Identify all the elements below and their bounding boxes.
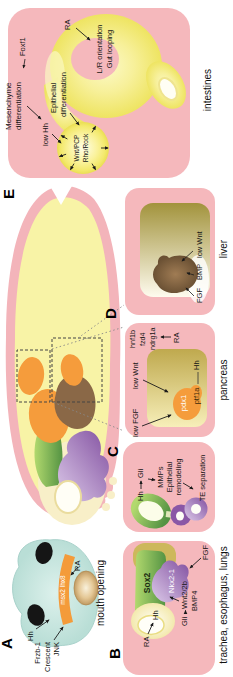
caption-mouth-opening: mouth opening [96, 537, 107, 649]
label-mesenchyme-2: differentiation [15, 82, 23, 130]
label-epithelial-1: Epithelial [50, 83, 58, 113]
caption-liver: liver [219, 219, 230, 279]
label-fgf-b: FGF [202, 545, 210, 560]
trachea-lumen [176, 512, 184, 521]
embryo-schematic [6, 186, 124, 525]
label-rho-rock: Rho/Rock [83, 127, 90, 169]
label-hnf1b: hnf1b [129, 330, 137, 348]
label-frzb1: Frzb-1 [34, 642, 42, 677]
label-low-wnt-d: low Wnt [196, 231, 204, 258]
label-fzd4: fzd4 [139, 332, 147, 346]
label-low-wnt-c: low Wnt [132, 362, 140, 389]
label-wnt2-2b: Wnt2/2b [181, 581, 189, 609]
label-te-separation: TE separation [199, 449, 207, 507]
caption-intestines: intestines [203, 55, 214, 125]
label-gli-b2: Gli [137, 469, 145, 478]
label-ptf1a: ptf1a [193, 381, 201, 411]
label-hh-c: Hh [193, 360, 201, 370]
label-fgf-d: FGF [196, 288, 204, 303]
figure-artwork [0, 0, 233, 677]
label-pdx1: pdx1 [180, 387, 188, 419]
label-ra-b: RA [143, 637, 151, 647]
label-crescent: Crescent [44, 642, 52, 677]
caption-pancreas: pancreas [219, 345, 230, 415]
caption-trachea-esophagus-lungs: trachea, esophagus, lungs [219, 537, 230, 673]
label-ra-a: RA [74, 561, 82, 571]
label-remodeling: remodeling [175, 453, 183, 501]
label-jnk: JNK [53, 642, 61, 677]
label-bmp4: BMP4 [191, 591, 199, 611]
branchial-bump [109, 477, 117, 485]
label-hh-b: Hh [152, 610, 160, 620]
panel-letter-c: C [105, 446, 121, 457]
figure-canvas: A Hh RA Frzb-1 Crescent JNK msx2 lhx8 mo… [0, 0, 233, 677]
label-hh-b2: Hh [137, 491, 145, 501]
label-msx2-lhx8: msx2 lhx8 [60, 560, 67, 620]
label-sox2: Sox2 [143, 555, 152, 611]
label-mmps: MMPs [157, 457, 165, 497]
label-hh-a: Hh [27, 631, 35, 641]
label-lr-orientation: L/R orientation [96, 19, 104, 79]
label-ra-c: RA [173, 333, 181, 343]
label-ra-e: RA [64, 20, 72, 30]
label-nkx2-1: Nkx2-1 [168, 559, 176, 603]
branchial-bump [107, 491, 115, 499]
label-bmp-d: BMP [196, 264, 204, 280]
panel-letter-d: D [103, 308, 119, 319]
branchial-bump [102, 503, 110, 511]
label-mesenchyme-1: Mesenchyme [5, 82, 13, 130]
figure-rotated-strip: A Hh RA Frzb-1 Crescent JNK msx2 lhx8 mo… [0, 0, 233, 677]
embryo-mouth-opening [55, 481, 81, 513]
label-epithelial-2: differentiation [60, 72, 68, 117]
panel-letter-e: E [1, 189, 17, 199]
panel-letter-a: A [0, 638, 15, 649]
label-gli-b: Gli [181, 617, 189, 626]
label-epithelial-b: Epithelial [166, 453, 174, 501]
panel-letter-b: B [107, 648, 123, 659]
label-gut-looping: Gut looping [106, 19, 114, 79]
label-ndrg1a: ndrg1a [149, 328, 157, 350]
label-low-fgf: low FGF [132, 409, 140, 437]
label-foxf1: Foxf1 [19, 37, 27, 56]
label-wnt-pcp: Wnt/PCP [74, 127, 81, 169]
label-low-hh: low Hh [42, 123, 50, 146]
